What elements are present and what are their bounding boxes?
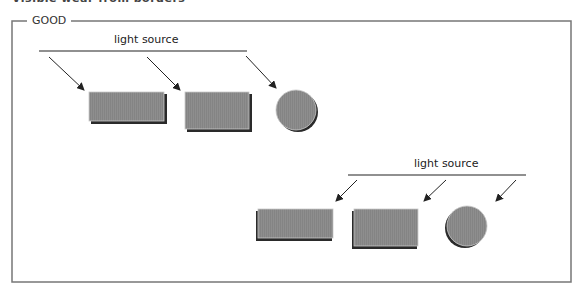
rectangle-shape (89, 92, 164, 121)
circle-shape (276, 90, 316, 130)
arrow-icon (496, 180, 516, 201)
arrow-icon (49, 57, 84, 90)
arrow-icon (147, 57, 180, 90)
arrow-icon (424, 180, 446, 201)
light-source-label-bottom: light source (414, 157, 478, 170)
rectangle-shape (185, 92, 249, 129)
light-source-label-top: light source (114, 33, 178, 46)
frame-label: GOOD (27, 13, 71, 29)
rectangle-shape (354, 209, 418, 246)
circle-shape (447, 206, 487, 246)
arrow-icon (246, 56, 276, 88)
top-light-group (39, 51, 318, 132)
diagram-canvas (0, 0, 582, 293)
bottom-light-group (256, 175, 526, 249)
rectangle-shape (258, 209, 333, 238)
frame-border (12, 21, 571, 282)
arrow-icon (336, 180, 357, 201)
